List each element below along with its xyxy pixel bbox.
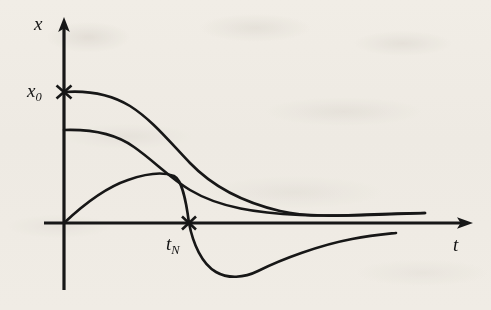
figure-canvas: x t x0 tN	[0, 0, 491, 310]
x-axis-label: x	[34, 14, 42, 33]
t-axis-label: t	[453, 235, 458, 254]
curve-2-lower-decay	[64, 130, 425, 216]
x0-tick-label: x0	[27, 81, 42, 100]
x-axis	[58, 17, 70, 290]
tn-tick-label: tN	[166, 234, 180, 253]
curve-1-monotone-decay	[64, 92, 425, 216]
curve-3-overshoot-undershoot	[64, 174, 396, 277]
plot-drawing	[0, 0, 491, 310]
t-axis	[44, 217, 473, 229]
